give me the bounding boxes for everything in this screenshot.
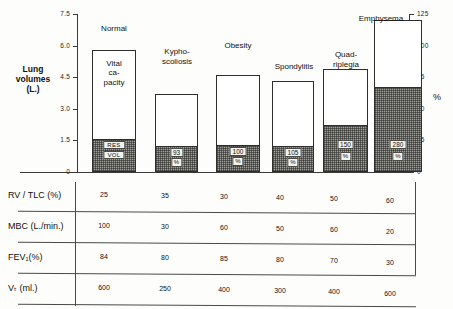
bar-6: 280%: [374, 20, 422, 172]
bar-5: 150%: [323, 69, 368, 172]
bar-category-label-3: Obesity: [209, 41, 267, 51]
y-tick-right: [410, 172, 414, 173]
bar-category-label-6: Emphysema: [340, 14, 422, 24]
data-table: RV / TLC (%)253530405060MBC (L./min.)100…: [0, 182, 453, 309]
table-cell: 25: [84, 191, 124, 198]
residual-volume-percent-value: 93: [170, 148, 183, 157]
table-row-divider: [18, 304, 416, 307]
table-cell: 400: [314, 288, 354, 295]
bar-category-label-2: Kypho- scoliosis: [148, 47, 206, 66]
y-tick-left: [73, 172, 77, 173]
y-tick-left: [73, 14, 77, 15]
table-cell: 85: [204, 255, 244, 262]
y-axis-title-right: %: [433, 92, 441, 102]
y-tick-left: [73, 140, 77, 141]
bar-3: 100%: [216, 75, 260, 172]
y-tick-label-left: 3.0: [44, 105, 70, 112]
plot-area: Lung volumes (L.) % 01.53.04.56.07.5 025…: [0, 0, 453, 182]
table-cell: 30: [204, 193, 244, 200]
table-cell: 30: [370, 259, 410, 266]
y-tick-label-left: 4.5: [44, 73, 70, 80]
table-cell: 84: [84, 253, 124, 260]
residual-volume-percent-symbol: %: [392, 152, 403, 161]
table-cell: 35: [145, 192, 185, 199]
table-cell: 80: [260, 256, 300, 263]
y-tick-left: [73, 77, 77, 78]
bar-4: 105%: [272, 81, 314, 172]
y-tick-label-left: 1.5: [44, 136, 70, 143]
residual-volume-percent-value: 100: [230, 147, 247, 156]
table-cell: 300: [260, 287, 300, 294]
bar-category-label-1: Normal: [86, 24, 142, 34]
residual-volume-percent-value: 280: [390, 140, 407, 149]
table-cell: 60: [204, 224, 244, 231]
bar-category-label-5: Quad- riplegia: [315, 50, 377, 69]
residual-volume-text-2: VOL: [103, 151, 124, 160]
y-tick-left: [73, 46, 77, 47]
table-cell: 60: [314, 226, 354, 233]
y-axis-title-left-line1: Lung: [23, 64, 44, 74]
bar-1: Vital ca- pacityRESVOL: [92, 50, 136, 172]
y-tick-label-left: 7.5: [44, 10, 70, 17]
bar-2: 93%: [155, 94, 198, 172]
table-row: Vₜ (ml.)600250400300400600: [0, 275, 453, 306]
residual-volume-percent-value: 150: [337, 140, 354, 149]
table-cell: 50: [260, 225, 300, 232]
chart-figure: Lung volumes (L.) % 01.53.04.56.07.5 025…: [0, 0, 453, 309]
table-row: FEV₁(%)848085807030: [0, 244, 453, 275]
residual-volume-percent-symbol: %: [171, 158, 182, 167]
y-axis-title-left-line3: (L.): [26, 84, 39, 94]
table-cell: 50: [314, 195, 354, 202]
residual-volume-text-1: RES: [103, 141, 125, 150]
table-cell: 80: [145, 254, 185, 261]
table-cell: 100: [84, 222, 124, 229]
y-tick-label-left: 0: [44, 168, 70, 175]
table-right-edge: [415, 182, 416, 275]
table-cell: 20: [370, 228, 410, 235]
residual-volume-percent-symbol: %: [287, 158, 298, 167]
table-row: RV / TLC (%)253530405060: [0, 182, 453, 213]
table-vertical-divider: [75, 182, 76, 306]
y-tick-left: [73, 109, 77, 110]
table-cell: 60: [370, 197, 410, 204]
table-row: MBC (L./min.)1003060506020: [0, 213, 453, 244]
y-axis-left: [77, 14, 78, 172]
table-cell: 600: [84, 284, 124, 291]
residual-volume-percent-symbol: %: [340, 152, 351, 161]
table-cell: 30: [145, 223, 185, 230]
table-cell: 70: [314, 257, 354, 264]
vital-capacity-label: Vital ca- pacity: [93, 59, 135, 88]
x-axis-baseline: [20, 172, 410, 173]
table-cell: 250: [145, 285, 185, 292]
y-tick-label-left: 6.0: [44, 42, 70, 49]
table-cell: 600: [370, 290, 410, 297]
table-cell: 400: [204, 286, 244, 293]
residual-volume-percent-value: 105: [285, 148, 302, 157]
table-cell: 40: [260, 194, 300, 201]
residual-volume-percent-symbol: %: [232, 157, 243, 166]
